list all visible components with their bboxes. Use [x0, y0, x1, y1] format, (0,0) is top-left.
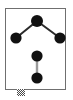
graph-node[interactable] — [31, 15, 43, 27]
graph-node[interactable] — [10, 32, 21, 43]
graph-node[interactable] — [31, 72, 42, 83]
graph-edges — [16, 21, 60, 78]
graph-canvas — [0, 0, 73, 100]
figure-thumbnail — [0, 0, 73, 100]
resize-handle[interactable] — [17, 89, 25, 96]
graph-nodes — [10, 15, 65, 84]
graph-node[interactable] — [54, 32, 65, 43]
graph-node[interactable] — [31, 50, 42, 61]
